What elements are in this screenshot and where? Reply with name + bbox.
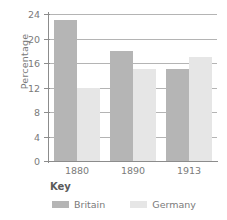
bar-germany-1880[interactable] <box>77 88 100 162</box>
y-axis-tick-label: 20 <box>14 33 40 44</box>
y-axis-tick-label: 24 <box>14 9 40 20</box>
y-axis-tick-label: 16 <box>14 58 40 69</box>
x-axis-tick-label-1880: 1880 <box>54 165 100 176</box>
bar-germany-1913[interactable] <box>189 57 212 161</box>
legend-item-britain[interactable]: Britain <box>52 199 105 210</box>
britain-swatch-icon <box>52 201 69 208</box>
legend-label-germany: Germany <box>152 199 196 210</box>
x-axis-tick-label-1913: 1913 <box>166 165 212 176</box>
y-axis-tick-label: 4 <box>14 131 40 142</box>
bar-germany-1890[interactable] <box>133 69 156 161</box>
bar-britain-1913[interactable] <box>166 69 189 161</box>
x-axis-tick-label-1890: 1890 <box>110 165 156 176</box>
y-axis-tick-label: 12 <box>14 82 40 93</box>
legend-item-germany[interactable]: Germany <box>130 199 196 210</box>
bar-chart: Percentage 04812162024 188018901913 Key … <box>0 0 227 220</box>
y-axis-tick <box>44 161 50 162</box>
key-title: Key <box>50 181 71 192</box>
bars-layer <box>49 14 217 161</box>
bar-britain-1880[interactable] <box>54 20 77 161</box>
y-axis-tick-label: 0 <box>14 156 40 167</box>
chart-legend: Britain Germany <box>52 199 196 210</box>
bar-britain-1890[interactable] <box>110 51 133 161</box>
legend-label-britain: Britain <box>74 199 105 210</box>
y-axis-tick-label: 8 <box>14 107 40 118</box>
x-axis-line <box>48 161 218 162</box>
germany-swatch-icon <box>130 201 147 208</box>
